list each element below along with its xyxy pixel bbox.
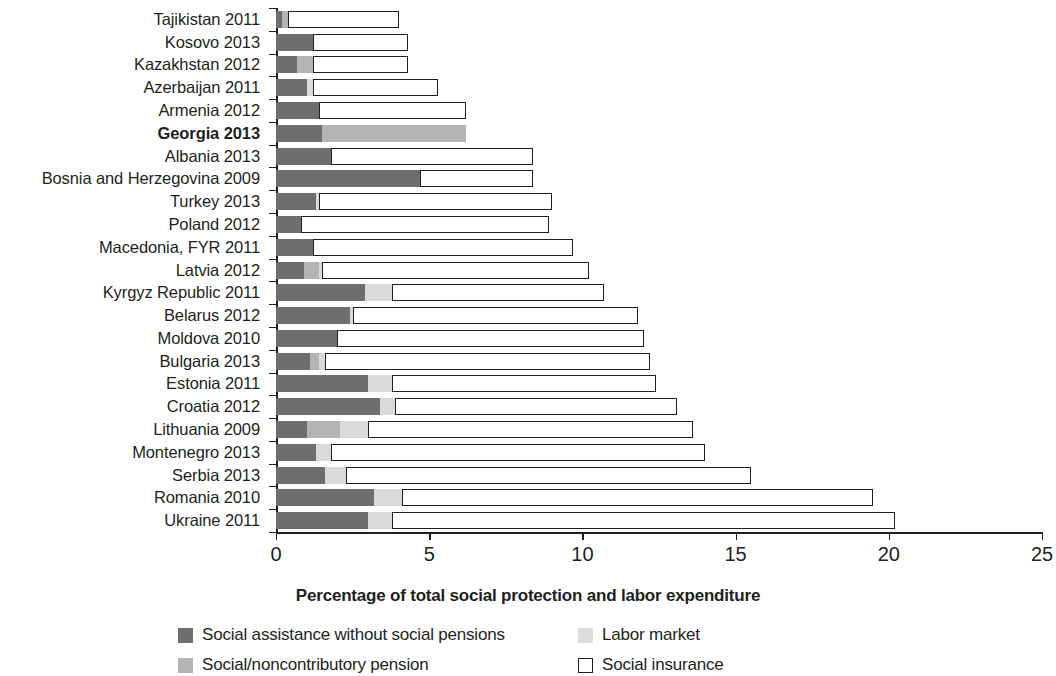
bar-segment-sa[interactable] (276, 216, 301, 233)
y-axis-label: Armenia 2012 (158, 102, 260, 119)
y-axis-tick (269, 76, 276, 77)
bar-segment-si[interactable] (288, 11, 398, 28)
bar-row[interactable] (276, 56, 1042, 73)
bar-segment-si[interactable] (392, 284, 603, 301)
bar-segment-sa[interactable] (276, 489, 374, 506)
bar-row[interactable] (276, 239, 1042, 256)
bar-segment-sa[interactable] (276, 512, 368, 529)
bar-segment-sa[interactable] (276, 467, 325, 484)
y-axis-label: Lithuania 2009 (153, 421, 260, 438)
bar-row[interactable] (276, 421, 1042, 438)
bar-row[interactable] (276, 512, 1042, 529)
x-axis-tick (429, 532, 430, 540)
bar-segment-sa[interactable] (276, 398, 380, 415)
bar-segment-sa[interactable] (276, 262, 304, 279)
bar-segment-lm[interactable] (380, 398, 395, 415)
y-axis-label: Kosovo 2013 (165, 34, 260, 51)
bar-segment-sp[interactable] (304, 262, 319, 279)
bar-segment-lm[interactable] (368, 375, 393, 392)
bar-segment-si[interactable] (301, 216, 549, 233)
bar-row[interactable] (276, 444, 1042, 461)
bar-segment-sa[interactable] (276, 79, 307, 96)
bar-segment-sa[interactable] (276, 148, 331, 165)
bar-segment-sa[interactable] (276, 421, 307, 438)
y-axis-tick (269, 304, 276, 305)
bar-row[interactable] (276, 34, 1042, 51)
bar-row[interactable] (276, 467, 1042, 484)
bar-segment-si[interactable] (395, 398, 677, 415)
x-axis-tick-label: 15 (724, 543, 746, 566)
bar-segment-sa[interactable] (276, 102, 319, 119)
bar-segment-sa[interactable] (276, 125, 322, 142)
bar-segment-si[interactable] (346, 467, 750, 484)
bar-segment-sa[interactable] (276, 170, 420, 187)
bar-segment-si[interactable] (392, 375, 656, 392)
bar-row[interactable] (276, 489, 1042, 506)
bar-segment-sp[interactable] (322, 125, 466, 142)
bar-segment-si[interactable] (313, 239, 573, 256)
bar-row[interactable] (276, 307, 1042, 324)
bar-row[interactable] (276, 170, 1042, 187)
bar-segment-sp[interactable] (297, 56, 312, 73)
bar-segment-si[interactable] (337, 330, 643, 347)
bar-segment-lm[interactable] (316, 444, 331, 461)
bar-segment-si[interactable] (368, 421, 693, 438)
bar-segment-sp[interactable] (310, 353, 319, 370)
bar-segment-si[interactable] (313, 79, 439, 96)
bar-segment-si[interactable] (402, 489, 874, 506)
bar-segment-sa[interactable] (276, 353, 310, 370)
bar-row[interactable] (276, 216, 1042, 233)
bar-segment-lm[interactable] (374, 489, 402, 506)
y-axis-tick (269, 145, 276, 146)
bar-segment-si[interactable] (353, 307, 638, 324)
y-axis-tick (269, 350, 276, 351)
bar-segment-si[interactable] (322, 262, 589, 279)
bar-row[interactable] (276, 193, 1042, 210)
bar-row[interactable] (276, 330, 1042, 347)
x-axis-tick-label: 5 (424, 543, 435, 566)
y-axis-label: Belarus 2012 (164, 307, 260, 324)
bar-segment-lm[interactable] (325, 467, 346, 484)
bar-row[interactable] (276, 79, 1042, 96)
legend-item[interactable]: Labor market (578, 625, 878, 645)
bar-row[interactable] (276, 148, 1042, 165)
x-axis-tick (582, 532, 583, 540)
bar-row[interactable] (276, 102, 1042, 119)
bar-segment-lm[interactable] (368, 512, 393, 529)
bar-segment-si[interactable] (313, 56, 408, 73)
bar-segment-sa[interactable] (276, 239, 313, 256)
legend-item[interactable]: Social insurance (578, 655, 878, 675)
bar-segment-sa[interactable] (276, 307, 350, 324)
legend-label: Social insurance (602, 655, 724, 675)
bar-row[interactable] (276, 11, 1042, 28)
bar-row[interactable] (276, 353, 1042, 370)
legend-item[interactable]: Social assistance without social pension… (178, 625, 578, 645)
bar-segment-sa[interactable] (276, 444, 316, 461)
bar-row[interactable] (276, 375, 1042, 392)
bar-segment-si[interactable] (420, 170, 533, 187)
bar-segment-si[interactable] (319, 193, 552, 210)
bar-segment-si[interactable] (331, 148, 533, 165)
bar-segment-si[interactable] (319, 102, 466, 119)
x-axis-tick-label: 10 (571, 543, 593, 566)
bar-row[interactable] (276, 398, 1042, 415)
legend-item[interactable]: Social/noncontributory pension (178, 655, 578, 675)
bar-segment-si[interactable] (313, 34, 408, 51)
bar-segment-si[interactable] (331, 444, 705, 461)
bar-segment-sa[interactable] (276, 34, 313, 51)
bar-segment-sa[interactable] (276, 284, 365, 301)
bar-segment-sa[interactable] (276, 375, 368, 392)
bar-segment-si[interactable] (325, 353, 650, 370)
y-axis-tick (269, 99, 276, 100)
bar-segment-sa[interactable] (276, 56, 297, 73)
bar-row[interactable] (276, 262, 1042, 279)
y-axis-tick (269, 259, 276, 260)
bar-segment-sa[interactable] (276, 193, 316, 210)
bar-segment-lm[interactable] (340, 421, 368, 438)
bar-segment-si[interactable] (392, 512, 894, 529)
bar-segment-lm[interactable] (365, 284, 393, 301)
bar-segment-sp[interactable] (307, 421, 341, 438)
bar-row[interactable] (276, 125, 1042, 142)
bar-row[interactable] (276, 284, 1042, 301)
bar-segment-sa[interactable] (276, 330, 337, 347)
